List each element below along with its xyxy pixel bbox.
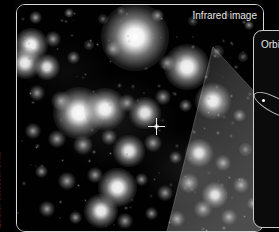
star-point — [51, 91, 72, 112]
star-point — [118, 94, 136, 112]
background-star — [176, 36, 178, 38]
star-point — [233, 177, 249, 193]
background-star — [162, 65, 166, 69]
star-point — [64, 8, 74, 18]
star-point — [113, 135, 144, 166]
background-star — [192, 130, 196, 134]
star-point — [84, 194, 118, 228]
background-star — [158, 172, 160, 174]
background-star — [211, 207, 213, 209]
star-point — [101, 5, 169, 71]
diffuse-glow — [17, 5, 263, 231]
infrared-image-label: Infrared image — [193, 10, 257, 21]
background-star — [203, 127, 206, 130]
background-star — [124, 206, 128, 210]
background-star — [106, 179, 109, 182]
background-star — [127, 35, 129, 37]
orbit-ellipse-icon — [253, 87, 279, 124]
background-star — [70, 34, 74, 38]
background-star — [40, 164, 44, 168]
background-star — [242, 51, 244, 53]
background-star — [201, 227, 205, 231]
background-star — [178, 57, 182, 61]
background-star — [84, 73, 87, 76]
star-point — [34, 54, 60, 80]
background-star — [76, 76, 78, 78]
background-star — [28, 57, 31, 60]
star-point — [221, 209, 237, 225]
background-star — [246, 96, 250, 100]
star-point — [179, 99, 192, 112]
background-star — [204, 75, 207, 78]
background-star — [143, 92, 145, 94]
background-star — [119, 19, 123, 23]
background-star — [175, 144, 179, 148]
background-star — [17, 212, 19, 214]
background-star — [136, 99, 139, 102]
background-star — [29, 92, 32, 95]
background-star — [92, 90, 96, 94]
star-point — [98, 168, 137, 207]
background-star — [35, 144, 39, 148]
background-star — [218, 180, 220, 182]
background-star — [61, 159, 64, 162]
star-point — [17, 47, 41, 78]
star-point — [179, 173, 200, 194]
background-star — [177, 220, 181, 224]
background-star — [140, 120, 142, 122]
background-star — [194, 191, 196, 193]
background-star — [228, 176, 231, 179]
figure-canvas: Infrared image Orbit ESO/S. Gillessen et… — [0, 0, 279, 232]
background-star — [222, 39, 226, 43]
star-point — [84, 88, 126, 130]
star-point — [84, 40, 94, 50]
star-point — [239, 143, 252, 156]
background-star — [191, 45, 195, 49]
star-point — [39, 201, 55, 217]
background-star — [226, 192, 228, 194]
star-point — [48, 130, 66, 148]
background-star — [213, 54, 217, 58]
background-star — [35, 146, 38, 149]
background-star — [129, 206, 132, 209]
background-star — [191, 188, 193, 190]
observation-cone-overlay — [17, 5, 263, 231]
background-star — [169, 183, 173, 187]
background-star — [72, 20, 74, 22]
background-star — [50, 136, 52, 138]
star-point — [29, 85, 45, 101]
background-star — [90, 128, 94, 132]
background-star — [21, 17, 25, 21]
background-star — [81, 76, 85, 80]
star-point — [159, 55, 175, 71]
background-star — [178, 74, 182, 78]
background-star — [207, 97, 211, 101]
star-point — [194, 200, 212, 218]
background-star — [244, 182, 246, 184]
star-point — [117, 213, 133, 229]
background-star — [140, 15, 142, 17]
background-star — [222, 76, 224, 78]
background-star — [238, 178, 241, 181]
star-point — [151, 9, 164, 22]
star-point — [202, 182, 228, 208]
background-star — [109, 152, 112, 155]
star-point — [155, 89, 171, 105]
background-star — [183, 186, 187, 190]
star-point — [135, 173, 148, 186]
background-star — [231, 121, 235, 125]
background-star — [89, 39, 92, 42]
background-star — [172, 92, 174, 94]
star-point — [45, 31, 61, 47]
background-star — [50, 68, 53, 71]
background-star — [108, 46, 110, 48]
background-star — [120, 44, 122, 46]
background-star — [90, 40, 92, 42]
background-star — [200, 95, 203, 98]
star-point — [117, 7, 125, 15]
background-star — [220, 183, 224, 187]
background-star — [173, 92, 177, 96]
background-star — [176, 59, 178, 61]
background-star — [216, 131, 220, 135]
background-star — [77, 184, 81, 188]
